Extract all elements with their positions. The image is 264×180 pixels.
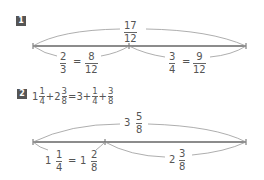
equals-sign: = — [73, 57, 81, 67]
numerator: 5 — [136, 112, 142, 122]
equals-sign: = — [182, 57, 190, 67]
numerator: 3 — [108, 87, 113, 95]
denominator: 4 — [169, 65, 175, 75]
denominator: 12 — [124, 34, 137, 44]
numerator: 3 — [62, 87, 67, 95]
fraction: 14 — [92, 87, 97, 105]
p1-right-fraction-a: 3 4 — [169, 52, 175, 75]
p2-right-fraction: 3 8 — [179, 149, 185, 172]
p2-total-fraction: 5 8 — [136, 112, 142, 135]
denominator: 3 — [60, 65, 66, 75]
denominator: 8 — [108, 97, 113, 105]
p2-left-fraction-a: 1 4 — [56, 150, 62, 173]
numerator: 3 — [169, 52, 175, 62]
equals-sign: = — [68, 91, 76, 102]
denominator: 8 — [136, 125, 142, 135]
denominator: 12 — [85, 65, 98, 75]
numerator: 17 — [124, 21, 137, 31]
denominator: 8 — [62, 97, 67, 105]
numerator: 3 — [179, 149, 185, 159]
denominator: 4 — [92, 97, 97, 105]
p2-total-whole: 3 — [124, 118, 130, 128]
p2-left-fraction-b: 2 8 — [91, 150, 97, 173]
numerator: 1 — [39, 87, 44, 95]
plus-sign: + — [83, 91, 91, 102]
denominator: 4 — [39, 97, 44, 105]
plus-sign: + — [46, 91, 54, 102]
p1-left-fraction-b: 8 12 — [85, 52, 98, 75]
whole: 2 — [54, 91, 60, 102]
numerator: 8 — [88, 52, 94, 62]
numerator: 9 — [196, 52, 202, 62]
fraction: 38 — [62, 87, 67, 105]
p2-left-whole-a: 1 — [45, 156, 51, 166]
problem-2-badge: 2 — [17, 89, 27, 99]
plus-sign: + — [99, 91, 107, 102]
p1-total-fraction: 17 12 — [124, 21, 137, 44]
whole: 1 — [32, 91, 38, 102]
p1-right-fraction-b: 9 12 — [193, 52, 206, 75]
p2-right-whole: 2 — [169, 155, 175, 165]
numerator: 1 — [92, 87, 97, 95]
numerator: 1 — [56, 150, 62, 160]
p2-left-whole-b: 1 — [80, 156, 86, 166]
fraction: 38 — [108, 87, 113, 105]
equals-sign: = — [68, 156, 76, 166]
numerator: 2 — [91, 150, 97, 160]
numerator: 2 — [60, 52, 66, 62]
denominator: 12 — [193, 65, 206, 75]
p1-left-fraction-a: 2 3 — [60, 52, 66, 75]
denominator: 8 — [179, 162, 185, 172]
denominator: 8 — [91, 163, 97, 173]
denominator: 4 — [56, 163, 62, 173]
fraction: 14 — [39, 87, 44, 105]
problem-2-equation: 1 14 + 2 38 = 3 + 14 + 38 — [32, 86, 114, 106]
